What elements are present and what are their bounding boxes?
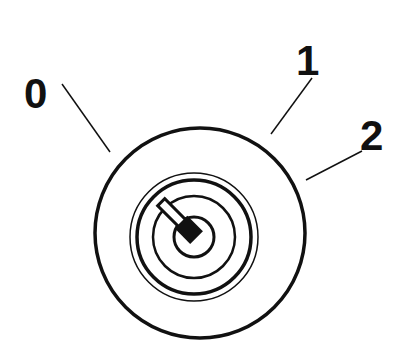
leader-line-2 (306, 151, 362, 180)
position-label-1: 1 (296, 37, 319, 84)
key-slot-icon (155, 196, 203, 244)
position-label-2: 2 (360, 112, 383, 159)
ignition-switch-diagram: 0 1 2 (0, 0, 414, 362)
leader-line-0 (62, 84, 110, 152)
position-label-0: 0 (24, 70, 47, 117)
leader-line-1 (271, 78, 312, 134)
